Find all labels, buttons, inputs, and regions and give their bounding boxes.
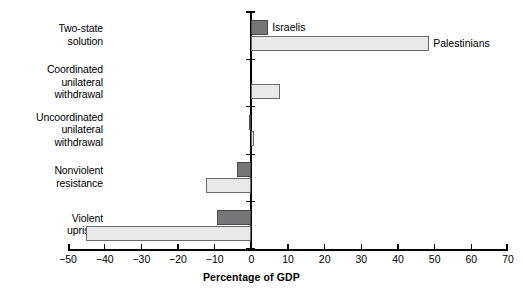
category-tick (246, 59, 255, 60)
x-axis-tick-label: 20 (319, 254, 331, 265)
bar-israelis (237, 162, 252, 177)
bar-israelis (249, 115, 251, 130)
x-axis-right-endcap (506, 244, 508, 250)
bar-palestinians (251, 131, 253, 146)
x-axis-tick (324, 244, 325, 249)
bar-palestinians (251, 36, 429, 51)
series-label-israelis: Israelis (272, 22, 305, 33)
x-axis-tick-label: 10 (282, 254, 294, 265)
x-axis-tick-label: 50 (429, 254, 441, 265)
x-axis-tick (434, 244, 435, 249)
x-axis-baseline (68, 249, 508, 251)
x-axis-tick-label: −30 (132, 254, 150, 265)
x-axis-tick (141, 244, 142, 249)
x-axis-tick (104, 244, 105, 249)
x-axis-tick-label: −20 (169, 254, 187, 265)
bar-israelis (217, 210, 252, 225)
x-axis-tick (251, 244, 252, 249)
category-tick (246, 106, 255, 107)
bar-israelis (251, 20, 268, 35)
category-tick (246, 11, 255, 12)
bar-palestinians (206, 178, 252, 193)
series-label-palestinians: Palestinians (433, 38, 490, 49)
x-axis-left-endcap (68, 244, 70, 250)
x-axis-tick-label: −50 (59, 254, 77, 265)
x-axis-tick (287, 244, 288, 249)
x-axis-tick (177, 244, 178, 249)
x-axis-tick-label: 70 (502, 254, 514, 265)
category-tick (246, 154, 255, 155)
x-axis-tick-label: 0 (248, 254, 254, 265)
x-axis-title: Percentage of GDP (0, 271, 503, 283)
bar-palestinians (86, 226, 251, 241)
category-tick (246, 201, 255, 202)
x-axis-tick-label: 40 (392, 254, 404, 265)
x-axis-tick-label: −40 (96, 254, 114, 265)
x-axis-tick (361, 244, 362, 249)
x-axis-tick-label: −10 (206, 254, 224, 265)
x-axis-tick-label: 60 (465, 254, 477, 265)
bar-palestinians (251, 84, 280, 99)
plot-area: IsraelisPalestinians (0, 0, 523, 250)
x-axis-tick-label: 30 (355, 254, 367, 265)
x-axis-tick (397, 244, 398, 249)
x-axis-tick (471, 244, 472, 249)
bar-chart: Two-statesolutionCoordinatedunilateralwi… (0, 0, 523, 290)
x-axis-tick (214, 244, 215, 249)
